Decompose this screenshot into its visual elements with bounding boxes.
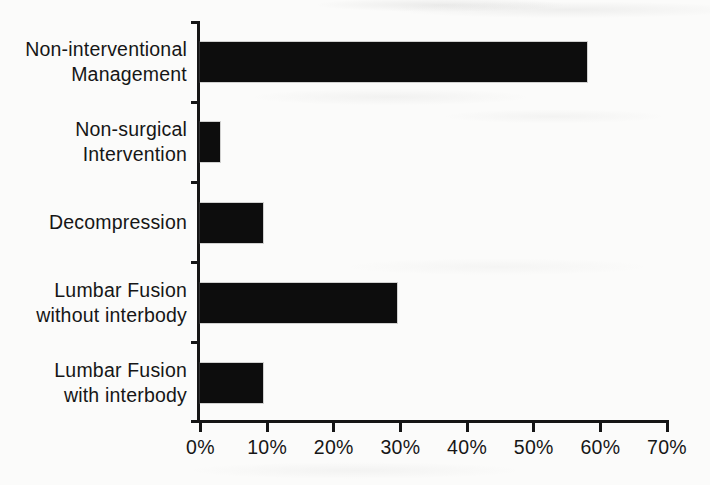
x-axis-tick-1 [266,423,269,432]
category-label-0: Non-interventional Management [0,37,187,87]
x-axis-tick-label-1: 10% [232,436,302,459]
bar-4 [200,363,263,403]
bar-0 [200,42,587,82]
x-axis-tick-4 [466,423,469,432]
y-axis-tick-4 [191,341,200,344]
bar-2 [200,203,263,243]
x-axis-tick-6 [599,423,602,432]
x-axis-tick-0 [199,423,202,432]
y-axis-tick-2 [191,181,200,184]
category-label-2: Decompression [0,210,187,235]
x-axis-tick-3 [399,423,402,432]
bar-1 [200,122,220,162]
x-axis-tick-label-3: 30% [365,436,435,459]
x-axis-line [191,420,669,423]
x-axis-tick-label-5: 50% [499,436,569,459]
x-axis-tick-label-6: 60% [565,436,635,459]
y-axis-tick-0 [191,21,200,24]
y-axis-tick-1 [191,101,200,104]
x-axis-tick-5 [532,423,535,432]
x-axis-tick-label-2: 20% [299,436,369,459]
bar-chart: Non-interventional ManagementNon-surgica… [0,0,710,485]
category-label-3: Lumbar Fusion without interbody [0,278,187,328]
category-label-1: Non-surgical Intervention [0,117,187,167]
category-label-4: Lumbar Fusion with interbody [0,358,187,408]
x-axis-tick-7 [666,423,669,432]
y-axis-tick-3 [191,261,200,264]
x-axis-tick-label-7: 70% [632,436,702,459]
x-axis-tick-label-4: 40% [432,436,502,459]
bar-3 [200,283,397,323]
scanned-bar-chart-page: Non-interventional ManagementNon-surgica… [0,0,710,485]
x-axis-tick-label-0: 0% [166,436,236,459]
x-axis-tick-2 [332,423,335,432]
